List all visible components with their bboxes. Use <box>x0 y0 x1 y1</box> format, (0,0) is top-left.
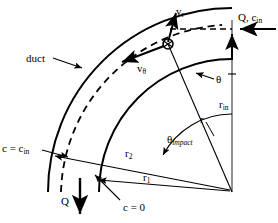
label-c-equals-zero: c = 0 <box>123 202 145 213</box>
label-r2: r2 <box>125 148 132 159</box>
label-r: r <box>200 114 204 125</box>
v-theta-vector <box>122 46 164 62</box>
duct-inner-wall <box>99 59 232 192</box>
theta-leader-arrow <box>196 73 214 79</box>
label-theta-impact: θimpact <box>167 134 193 145</box>
particle-trajectory-dashed <box>61 25 222 192</box>
label-v-theta: vθ <box>137 63 146 74</box>
duct-leader-arrow <box>53 58 82 68</box>
r1-dimension-line <box>99 180 230 191</box>
label-q-outflow: Q <box>61 196 69 207</box>
label-v-r: vr <box>176 6 184 17</box>
label-c-equals-c-in: c = cin <box>2 143 29 154</box>
label-duct: duct <box>26 53 45 64</box>
duct-outer-wall <box>48 8 232 192</box>
label-inlet-flow: Q, cin <box>238 12 262 23</box>
diagram-canvas: duct vr vθ Q, cin θ rin r θimpact c = ci… <box>0 0 278 223</box>
c-in-leader-arrow <box>42 150 68 157</box>
label-r-in: rin <box>219 99 229 110</box>
label-theta: θ <box>216 74 221 85</box>
diagram-vector-graphics <box>0 0 278 223</box>
label-r1: r1 <box>143 172 150 183</box>
